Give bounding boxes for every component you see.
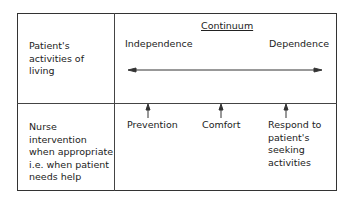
- intervention-respond: Respond to patient's seeking activities: [268, 119, 321, 169]
- intervention-prevention: Prevention: [127, 119, 178, 132]
- arrowhead-left-icon: [128, 68, 136, 72]
- arrows: [0, 0, 354, 205]
- intervention-comfort: Comfort: [202, 119, 241, 132]
- arrow-up-icon: [219, 104, 223, 110]
- arrow-up-icon: [284, 104, 288, 110]
- arrowhead-right-icon: [314, 68, 322, 72]
- arrow-up-icon: [146, 104, 150, 110]
